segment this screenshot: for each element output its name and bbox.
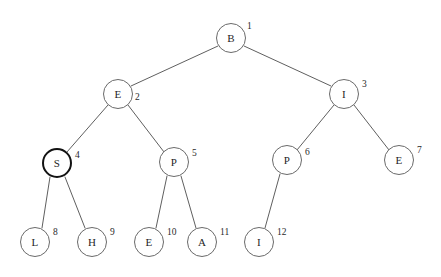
tree-node-index-9: 9 <box>110 228 115 238</box>
tree-node-label: E <box>396 154 403 165</box>
tree-node-4[interactable]: S <box>42 148 72 178</box>
tree-node-index-5: 5 <box>192 149 197 159</box>
tree-node-3[interactable]: I <box>329 79 359 109</box>
tree-node-10[interactable]: E <box>134 227 164 257</box>
tree-node-11[interactable]: A <box>187 227 217 257</box>
tree-node-2[interactable]: E <box>103 79 133 109</box>
tree-node-9[interactable]: H <box>77 227 107 257</box>
tree-node-12[interactable]: I <box>244 227 274 257</box>
tree-node-5[interactable]: P <box>159 147 189 177</box>
tree-node-label: P <box>284 154 290 165</box>
tree-node-index-6: 6 <box>305 148 310 158</box>
tree-node-label: A <box>198 236 206 247</box>
tree-node-label: B <box>227 32 235 43</box>
tree-node-1[interactable]: B <box>216 23 246 53</box>
tree-node-label: S <box>54 157 60 168</box>
tree-node-index-7: 7 <box>417 146 422 156</box>
tree-node-label: P <box>171 156 177 167</box>
tree-node-layer: B1E2I3S4P5P6E7L8H9E10A11I12 <box>0 0 441 277</box>
tree-node-label: L <box>32 236 39 247</box>
tree-node-label: H <box>88 236 96 247</box>
tree-node-label: I <box>342 88 346 99</box>
tree-node-index-2: 2 <box>135 93 140 103</box>
tree-node-index-4: 4 <box>75 151 80 161</box>
tree-node-index-8: 8 <box>53 228 58 238</box>
tree-node-index-11: 11 <box>220 228 229 238</box>
tree-node-index-10: 10 <box>167 228 177 238</box>
tree-node-label: I <box>257 236 261 247</box>
tree-diagram-canvas: B1E2I3S4P5P6E7L8H9E10A11I12 <box>0 0 441 277</box>
tree-node-index-1: 1 <box>247 22 252 32</box>
tree-node-6[interactable]: P <box>272 145 302 175</box>
tree-node-label: E <box>115 88 122 99</box>
tree-node-index-12: 12 <box>277 228 287 238</box>
tree-node-label: E <box>146 236 153 247</box>
tree-node-8[interactable]: L <box>20 227 50 257</box>
tree-node-7[interactable]: E <box>384 145 414 175</box>
tree-node-index-3: 3 <box>362 80 367 90</box>
